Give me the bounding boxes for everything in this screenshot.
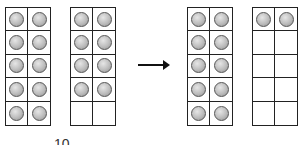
frame-cell bbox=[93, 31, 115, 54]
frame-cell bbox=[275, 55, 297, 78]
counter-icon bbox=[214, 82, 229, 97]
counter-icon bbox=[279, 12, 294, 27]
frame-cell bbox=[253, 102, 275, 125]
count-label: 10 bbox=[54, 137, 70, 145]
counter-icon bbox=[9, 58, 24, 73]
frame-cell bbox=[28, 55, 50, 78]
counter-icon bbox=[214, 106, 229, 121]
counter-icon bbox=[32, 106, 47, 121]
counter-icon bbox=[191, 58, 206, 73]
frame-cell bbox=[71, 31, 93, 54]
counter-icon bbox=[9, 82, 24, 97]
frame-cell bbox=[275, 31, 297, 54]
right-arrow-icon bbox=[138, 64, 168, 66]
counter-icon bbox=[9, 12, 24, 27]
frame-cell bbox=[253, 31, 275, 54]
frame-cell bbox=[6, 55, 28, 78]
counter-icon bbox=[214, 35, 229, 50]
frame-cell bbox=[188, 31, 210, 54]
counter-icon bbox=[97, 12, 112, 27]
counter-icon bbox=[32, 58, 47, 73]
frame-cell bbox=[6, 102, 28, 125]
frame-cell bbox=[6, 8, 28, 31]
counter-icon bbox=[191, 106, 206, 121]
frame-cell bbox=[188, 78, 210, 101]
frame-cell bbox=[253, 55, 275, 78]
counter-icon bbox=[97, 82, 112, 97]
counter-icon bbox=[191, 12, 206, 27]
frame-cell bbox=[253, 78, 275, 101]
frame-cell bbox=[188, 8, 210, 31]
frame-cell bbox=[210, 31, 232, 54]
frame-cell bbox=[6, 78, 28, 101]
frame-cell bbox=[93, 102, 115, 125]
counter-icon bbox=[97, 35, 112, 50]
counter-icon bbox=[191, 82, 206, 97]
counter-icon bbox=[97, 58, 112, 73]
frame-cell bbox=[71, 102, 93, 125]
counter-icon bbox=[32, 35, 47, 50]
frame-cell bbox=[28, 102, 50, 125]
frame-cell bbox=[71, 55, 93, 78]
frame-cell bbox=[93, 55, 115, 78]
ten-frame-before-1 bbox=[5, 7, 51, 126]
counter-icon bbox=[9, 106, 24, 121]
frame-cell bbox=[93, 8, 115, 31]
frame-cell bbox=[275, 102, 297, 125]
counter-icon bbox=[74, 58, 89, 73]
frame-cell bbox=[210, 55, 232, 78]
frame-cell bbox=[93, 78, 115, 101]
frame-cell bbox=[275, 8, 297, 31]
frame-cell bbox=[210, 102, 232, 125]
frame-cell bbox=[210, 78, 232, 101]
frame-cell bbox=[188, 102, 210, 125]
frame-cell bbox=[28, 8, 50, 31]
counter-icon bbox=[74, 12, 89, 27]
frame-cell bbox=[71, 78, 93, 101]
frame-cell bbox=[28, 31, 50, 54]
counter-icon bbox=[191, 35, 206, 50]
frame-cell bbox=[275, 78, 297, 101]
counter-icon bbox=[214, 58, 229, 73]
ten-frame-before-2 bbox=[70, 7, 116, 126]
counter-icon bbox=[214, 12, 229, 27]
frame-cell bbox=[210, 8, 232, 31]
counter-icon bbox=[32, 12, 47, 27]
counter-icon bbox=[74, 35, 89, 50]
counter-icon bbox=[32, 82, 47, 97]
frame-cell bbox=[188, 55, 210, 78]
counter-icon bbox=[74, 82, 89, 97]
counter-icon bbox=[256, 12, 271, 27]
frame-cell bbox=[253, 8, 275, 31]
frame-cell bbox=[28, 78, 50, 101]
frame-cell bbox=[71, 8, 93, 31]
ten-frame-after-2 bbox=[252, 7, 298, 126]
counter-icon bbox=[9, 35, 24, 50]
ten-frame-after-1 bbox=[187, 7, 233, 126]
frame-cell bbox=[6, 31, 28, 54]
